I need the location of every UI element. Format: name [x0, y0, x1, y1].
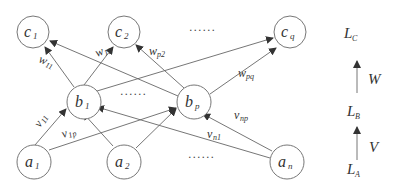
svg-text:L: L	[343, 25, 352, 41]
node-b1: b 1	[67, 85, 101, 119]
edge-label-vn1: v n1	[207, 127, 221, 142]
svg-text:a: a	[278, 153, 286, 170]
svg-text:np: np	[240, 114, 248, 123]
network-diagram: c 1 c 2 ...... c q b 1 ...... b p a 1 a …	[0, 0, 393, 189]
ellipsis-b: ......	[120, 85, 147, 98]
node-bp: b p	[177, 85, 211, 119]
svg-text:L: L	[346, 161, 355, 177]
svg-text:c: c	[281, 23, 288, 40]
svg-text:q: q	[290, 31, 295, 41]
legend-lc: L C	[343, 25, 358, 43]
svg-text:C: C	[352, 34, 358, 43]
node-a1: a 1	[17, 145, 51, 179]
svg-text:w: w	[149, 44, 157, 58]
svg-text:b: b	[185, 93, 193, 110]
svg-text:2: 2	[124, 31, 129, 41]
edge-label-vnp: v np	[234, 108, 248, 123]
node-c2: c 2	[108, 16, 140, 48]
edge-a1-bp	[49, 108, 176, 150]
node-an: a n	[270, 145, 304, 179]
edge-label-w11: w 11	[37, 52, 57, 72]
ellipsis-c: ......	[189, 21, 216, 34]
svg-text:A: A	[354, 170, 360, 179]
svg-text:pq: pq	[245, 72, 254, 81]
ellipsis-a: ......	[188, 148, 215, 161]
svg-text:1: 1	[35, 161, 40, 171]
svg-text:b: b	[75, 93, 83, 110]
node-cq: c q	[274, 16, 306, 48]
edge-label-w12: w 12	[93, 41, 113, 61]
svg-text:a: a	[115, 153, 123, 170]
svg-text:a: a	[25, 153, 33, 170]
legend-lb: L B	[346, 103, 360, 121]
svg-text:1p: 1p	[67, 129, 77, 140]
svg-text:n1: n1	[213, 133, 221, 142]
layer-legend: L C W L B V L A	[343, 25, 382, 179]
legend-w: W	[368, 71, 382, 87]
svg-text:p2: p2	[156, 50, 165, 59]
svg-text:c: c	[115, 23, 122, 40]
svg-text:w: w	[238, 66, 246, 80]
svg-text:n: n	[288, 161, 293, 171]
svg-text:1: 1	[33, 31, 38, 41]
edge-label-v1p: v 1p	[60, 123, 78, 142]
svg-text:B: B	[355, 112, 360, 121]
node-a2: a 2	[107, 145, 141, 179]
node-c1: c 1	[17, 16, 49, 48]
svg-text:1: 1	[85, 101, 90, 111]
edge-label-wpq: w pq	[238, 66, 254, 81]
svg-text:L: L	[346, 103, 355, 119]
legend-v: V	[369, 139, 380, 155]
svg-text:p: p	[194, 101, 200, 111]
edge-label-v11: v 11	[31, 111, 51, 130]
legend-la: L A	[346, 161, 360, 179]
svg-text:c: c	[24, 23, 31, 40]
edge-label-wp2: w p2	[149, 44, 165, 59]
svg-text:2: 2	[125, 161, 130, 171]
